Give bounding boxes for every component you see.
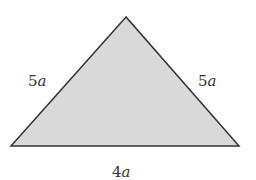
left-side-label: 5a bbox=[28, 72, 47, 90]
base-label: 4a bbox=[112, 163, 131, 180]
right-side-label: 5a bbox=[198, 72, 217, 90]
triangle-diagram: 5a 5a 4a bbox=[0, 0, 256, 180]
